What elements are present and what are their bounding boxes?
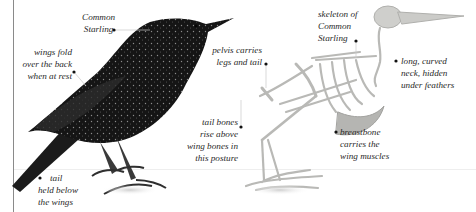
diagram-canvas: Common Starling wings fold over the back…	[0, 0, 476, 212]
label-neck: long, curved neck, hidden under feathers	[401, 55, 454, 91]
label-pelvis: pelvis carries legs and tail	[196, 44, 262, 68]
label-skeleton: skeleton of Common Starling	[318, 8, 358, 44]
label-tail-held: tail held below the wings	[38, 172, 78, 208]
label-breastbone: breastbone carries the wing muscles	[340, 126, 389, 162]
label-wings-fold: wings fold over the back when at rest	[20, 46, 72, 82]
label-common-starling: Common Starling	[82, 11, 115, 35]
label-tail-bones: tail bones rise above wing bones in this…	[184, 116, 238, 164]
